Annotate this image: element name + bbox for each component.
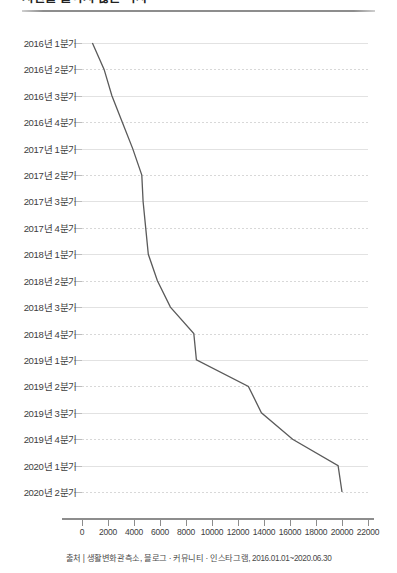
x-axis-tick-label: 0 [80, 527, 85, 537]
x-axis-tick-label: 20000 [331, 527, 354, 537]
x-axis-tick [368, 519, 369, 526]
series-line [0, 22, 397, 512]
x-axis: 0200040006000800010000120001400016000180… [0, 512, 397, 542]
x-axis-tick [212, 519, 213, 526]
x-axis-tick [316, 519, 317, 526]
x-axis-tick-label: 10000 [201, 527, 224, 537]
x-axis-tick [134, 519, 135, 526]
x-axis-tick [342, 519, 343, 526]
x-axis-tick [264, 519, 265, 526]
x-axis-tick [186, 519, 187, 526]
title-divider [22, 10, 375, 12]
plot-area: 2016년 1분기2016년 2분기2016년 3분기2016년 4분기2017… [0, 22, 397, 512]
x-axis-tick [290, 519, 291, 526]
x-axis-tick [108, 519, 109, 526]
chart-page: 시간을 들이지 않는 식사 2016년 1분기2016년 2분기2016년 3분… [0, 0, 397, 573]
x-axis-tick-label: 12000 [227, 527, 250, 537]
x-axis-tick [160, 519, 161, 526]
x-axis-tick-label: 8000 [177, 527, 195, 537]
x-axis-tick [82, 519, 83, 526]
x-axis-tick-label: 16000 [279, 527, 302, 537]
x-axis-tick-label: 14000 [253, 527, 276, 537]
x-axis-tick [238, 519, 239, 526]
page-title-text: 시간을 들이지 않는 식사 [22, 0, 362, 5]
x-axis-tick-label: 18000 [305, 527, 328, 537]
x-axis-tick-label: 4000 [125, 527, 143, 537]
x-axis-tick-label: 6000 [151, 527, 169, 537]
x-axis-tick-label: 22000 [357, 527, 380, 537]
x-axis-tick-label: 2000 [99, 527, 117, 537]
page-title: 시간을 들이지 않는 식사 [22, 0, 362, 5]
source-note: 출처 | 생활변화관측소, 블로그 · 커뮤니티 · 인스타그램, 2016.0… [0, 551, 397, 563]
